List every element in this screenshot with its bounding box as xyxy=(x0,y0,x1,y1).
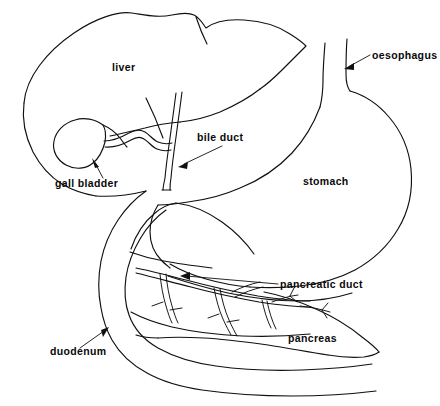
bile-duct-leader-line xyxy=(184,146,222,164)
label-bile-duct: bile duct xyxy=(197,131,243,143)
label-pancreatic-duct: pancreatic duct xyxy=(280,278,363,290)
label-oesophagus: oesophagus xyxy=(372,49,437,61)
annotation-labels: liver gall bladder bile duct oesophagus … xyxy=(50,49,437,357)
pancreatic-duct-leader-line xyxy=(186,276,278,284)
liver-porta-ridge xyxy=(96,191,146,196)
duodenum-inner-lumen-upper xyxy=(176,203,254,254)
pancreatic-duct-branch-6-pair xyxy=(267,301,276,329)
gall-bladder-outline xyxy=(54,119,106,169)
pancreas-tail-tip xyxy=(328,352,379,357)
digestive-system-figure: liver gall bladder bile duct oesophagus … xyxy=(0,0,440,406)
label-gall-bladder: gall bladder xyxy=(55,177,118,189)
gall-bladder-group xyxy=(54,119,127,169)
liver-outline xyxy=(24,13,306,103)
duodenum-outer-wall xyxy=(99,191,376,396)
duodenum-group xyxy=(99,191,376,396)
bile-duct-arrowhead xyxy=(178,162,188,169)
bile-duct-right-wall xyxy=(170,92,182,190)
liver-lower-right-edge xyxy=(180,89,260,122)
liver-left-inferior-border xyxy=(23,103,62,184)
oesophagus-left-wall xyxy=(320,43,325,107)
oesophagus-right-wall xyxy=(346,39,350,91)
duodenum-papilla-fold xyxy=(131,312,310,336)
label-stomach: stomach xyxy=(303,175,349,187)
liver-group xyxy=(23,13,306,197)
stomach-fundus-and-greater-curvature xyxy=(250,91,411,288)
anatomy-diagram: liver gall bladder bile duct oesophagus … xyxy=(0,0,440,406)
bile-duct-group xyxy=(162,92,182,190)
label-pancreas: pancreas xyxy=(288,332,337,344)
label-liver: liver xyxy=(112,61,135,73)
liver-inferior-border xyxy=(110,122,180,136)
duodenum-descending-fold xyxy=(130,252,212,268)
liver-hilum-line xyxy=(146,98,163,138)
bile-duct-left-wall xyxy=(163,93,176,190)
oesophagus-group xyxy=(320,39,350,107)
pancreas-head-contour xyxy=(136,335,158,338)
pancreatic-duct-branch-6 xyxy=(262,300,271,328)
label-duodenum: duodenum xyxy=(50,345,106,357)
